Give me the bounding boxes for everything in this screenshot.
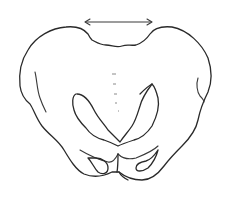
left-pubic-ramus xyxy=(80,150,118,162)
left-iliac-inner-line xyxy=(35,72,46,112)
midline-marks xyxy=(112,74,119,111)
pelvis-drawing xyxy=(0,0,225,198)
left-obturator-foramen xyxy=(88,158,108,174)
width-arrow xyxy=(85,19,152,25)
right-iliac-inner-line xyxy=(197,78,204,102)
pelvis-diagram xyxy=(0,0,225,198)
